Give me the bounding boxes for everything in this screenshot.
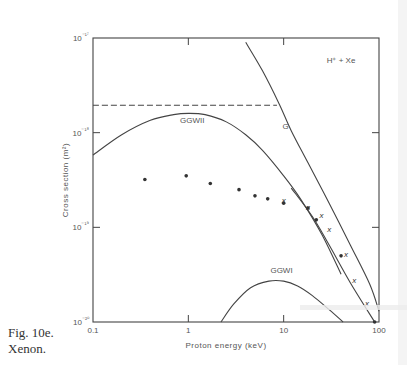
y-tick-label: 10⁻¹⁸ xyxy=(73,127,90,138)
figure-number: Fig. 10e. xyxy=(8,325,54,341)
data-point-dot xyxy=(339,254,343,258)
data-point-cross: x xyxy=(305,203,311,212)
data-point-dot xyxy=(253,194,257,198)
data-point-dot xyxy=(184,174,188,178)
y-tick-exponent: ⁻¹⁷ xyxy=(82,32,89,38)
data-series: xxxxxxx xyxy=(93,42,379,323)
scan-artifact-band xyxy=(300,305,407,310)
y-tick-exponent: ⁻¹⁹ xyxy=(81,221,89,227)
plot-border xyxy=(93,38,379,322)
axis-labels: 0.111010010⁻²⁰10⁻¹⁹10⁻¹⁸10⁻¹⁷Proton ener… xyxy=(61,32,386,350)
page-edge-shadow xyxy=(398,0,407,365)
curve-g-shifted-lower-line- xyxy=(291,188,374,322)
figure-subject: Xenon. xyxy=(8,341,54,357)
curve-ggwi xyxy=(221,280,343,322)
data-point-cross: x xyxy=(326,225,332,234)
annotation-label: GGWI xyxy=(270,266,292,275)
y-tick-exponent: ⁻¹⁸ xyxy=(81,127,89,133)
figure-caption: Fig. 10e. Xenon. xyxy=(8,325,54,357)
curve-g xyxy=(246,42,379,311)
axis-ticks xyxy=(93,38,379,322)
x-tick-label: 0.1 xyxy=(87,326,99,335)
data-point-cross: x xyxy=(351,276,357,285)
x-axis-title: Proton energy (keV) xyxy=(185,341,266,350)
data-point-dot xyxy=(209,182,213,186)
annotation-label: GGWII xyxy=(180,116,204,125)
y-axis-title: Cross section (m²) xyxy=(61,143,70,217)
cross-section-chart: xxxxxxx 0.111010010⁻²⁰10⁻¹⁹10⁻¹⁸10⁻¹⁷Pro… xyxy=(0,0,407,365)
annotation-label: H⁺ + Xe xyxy=(327,56,356,65)
data-point-dot xyxy=(315,218,319,222)
annotation-label: G xyxy=(283,122,289,131)
x-tick-label: 100 xyxy=(372,326,386,335)
data-point-dot xyxy=(143,178,147,182)
curve-ggwii xyxy=(93,113,341,274)
plot-frame xyxy=(93,38,379,322)
data-point-dot xyxy=(266,197,270,201)
y-tick-label: 10⁻¹⁷ xyxy=(73,32,89,43)
y-tick-exponent: ⁻²⁰ xyxy=(82,316,90,322)
x-tick-label: 1 xyxy=(186,326,191,335)
data-point-cross: x xyxy=(319,211,325,220)
data-point-dot xyxy=(237,188,241,192)
data-point-cross: x xyxy=(281,196,287,205)
data-point-cross: x xyxy=(343,250,349,259)
y-tick-label: 10⁻¹⁹ xyxy=(73,221,90,232)
data-point-dot xyxy=(373,320,377,324)
x-tick-label: 10 xyxy=(279,326,288,335)
